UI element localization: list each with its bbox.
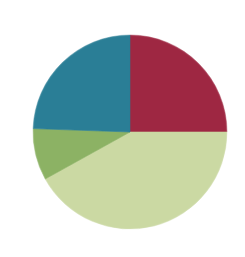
pie-slice-1[interactable] bbox=[130, 35, 227, 132]
pie-slice-group bbox=[33, 35, 227, 229]
pie-slice-4[interactable] bbox=[33, 35, 130, 132]
chart-canvas bbox=[0, 0, 245, 257]
pie-chart-svg bbox=[0, 0, 245, 257]
pie-chart-figure bbox=[0, 0, 245, 257]
